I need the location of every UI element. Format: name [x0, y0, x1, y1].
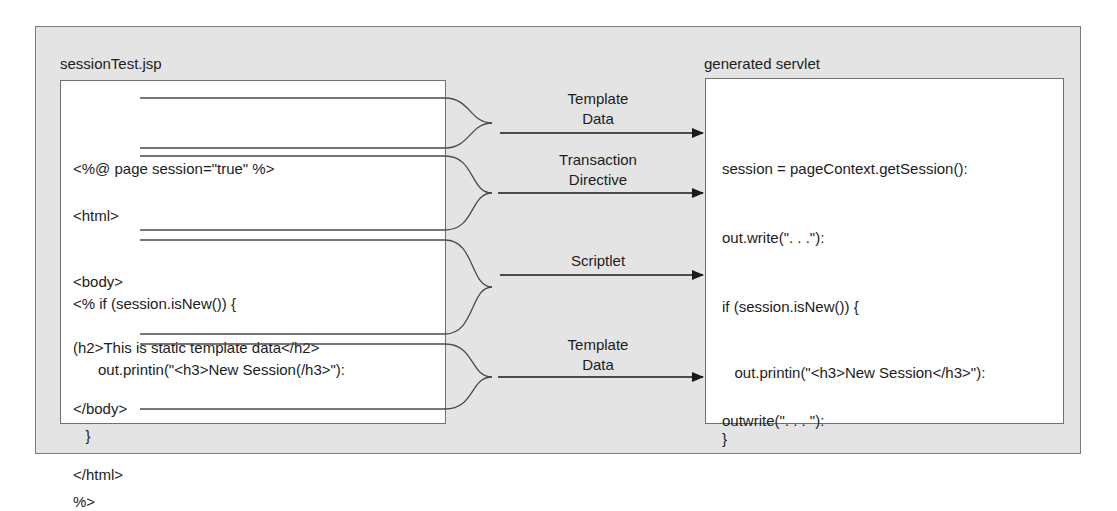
target-section-4: outwrite(". . . "): [722, 366, 824, 454]
source-section-4: </body> </html> [73, 354, 127, 508]
code-line: outwrite(". . . "): [722, 410, 824, 432]
code-line: <% if (session.isNew()) { [73, 293, 345, 315]
arrow-label-scriptlet: Scriptlet [518, 251, 678, 271]
code-line: out.write(". . ."): [722, 227, 824, 249]
arrow-label-template-data-2: Template Data [518, 335, 678, 375]
arrow-label-transaction-directive: Transaction Directive [518, 150, 678, 190]
code-line: if (session.isNew()) { [722, 296, 985, 318]
code-line: </html> [73, 464, 127, 486]
source-title: sessionTest.jsp [60, 55, 162, 72]
code-line: </body> [73, 398, 127, 420]
arrow-label-template-data-1: Template Data [518, 89, 678, 129]
target-title: generated servlet [704, 55, 820, 72]
code-line: <html> [73, 205, 319, 227]
code-line: session = pageContext.getSession(): [722, 158, 968, 180]
